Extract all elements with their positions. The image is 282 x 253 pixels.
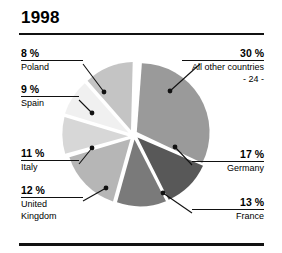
pie-label-united-kingdom-value: 12 %	[21, 184, 83, 197]
chart-page: 1998	[0, 0, 282, 253]
pie-label-spain[interactable]: 9 % Spain	[21, 83, 79, 109]
leader-dot-spain	[90, 111, 95, 116]
pie-chart: 8 % Poland 9 % Spain 11 % Italy 12 % Uni…	[0, 0, 282, 253]
pie-label-italy[interactable]: 11 % Italy	[21, 147, 79, 173]
pie-label-all-other-countries[interactable]: 30 % All other countries - 24 -	[182, 47, 264, 84]
pie-label-spain-name: Spain	[21, 97, 79, 109]
pie-label-all-other-countries-value: 30 %	[182, 47, 264, 60]
leader-dot-france	[161, 191, 166, 196]
pie-label-united-kingdom-name-line1: United	[21, 198, 83, 210]
pie-label-france[interactable]: 13 % France	[192, 196, 264, 222]
pie-label-germany-name: Germany	[192, 162, 264, 174]
pie-label-poland[interactable]: 8 % Poland	[21, 47, 83, 73]
leader-dot-uk	[104, 186, 109, 191]
pie-label-all-other-countries-name-line1: All other countries	[182, 61, 264, 73]
pie-label-united-kingdom[interactable]: 12 % United Kingdom	[21, 184, 83, 221]
pie-label-united-kingdom-name-line2: Kingdom	[21, 210, 83, 222]
leader-dot-germany	[173, 145, 178, 150]
pie-label-poland-name: Poland	[21, 61, 83, 73]
leader-dot-italy	[90, 146, 95, 151]
pie-label-france-value: 13 %	[192, 196, 264, 209]
leader-dot-other	[168, 89, 173, 94]
pie-label-poland-value: 8 %	[21, 47, 83, 60]
pie-label-germany[interactable]: 17 % Germany	[192, 148, 264, 174]
pie-label-italy-name: Italy	[21, 161, 79, 173]
leader-dot-poland	[102, 90, 107, 95]
footer-divider	[19, 243, 264, 246]
pie-label-germany-value: 17 %	[192, 148, 264, 161]
pie-label-spain-value: 9 %	[21, 83, 79, 96]
pie-label-france-name: France	[192, 210, 264, 222]
leader-line-france	[163, 193, 192, 213]
pie-label-all-other-countries-name-line2: - 24 -	[182, 73, 264, 85]
pie-label-italy-value: 11 %	[21, 147, 79, 160]
